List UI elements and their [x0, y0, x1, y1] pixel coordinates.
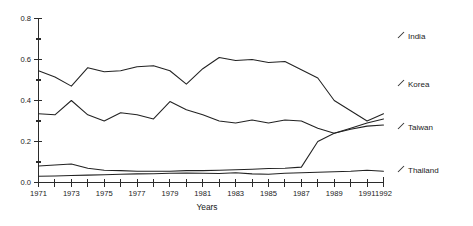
x-tick-label: 1973 — [63, 189, 80, 198]
x-tick-label: 1983 — [227, 189, 244, 198]
x-tick-label: 1987 — [293, 189, 310, 198]
x-axis-title: Years — [196, 202, 217, 212]
legend-leader-tick-taiwan — [398, 123, 404, 129]
x-tick-label: 1989 — [326, 189, 343, 198]
x-tick-label: 1971 — [30, 189, 47, 198]
y-tick-label: 0.4 — [20, 96, 31, 105]
legend-leader-tick-india — [398, 32, 404, 38]
x-tick-label: 1981 — [194, 189, 211, 198]
legend-label-korea: Korea — [408, 80, 430, 89]
x-tick-label: 1977 — [129, 189, 146, 198]
legend-label-thailand: Thailand — [408, 166, 439, 175]
series-line-taiwan — [39, 119, 384, 171]
x-tick-label: 1979 — [161, 189, 178, 198]
x-tick-label: 1991 — [359, 189, 376, 198]
legend-label-taiwan: Taiwan — [408, 123, 433, 132]
series-line-thailand — [39, 170, 384, 176]
chart-canvas: 0.00.20.40.60.8 197119731975197719791981… — [0, 0, 473, 226]
series-lines — [39, 57, 384, 176]
y-tick-label: 0.6 — [20, 55, 31, 64]
series-line-korea — [39, 101, 384, 134]
x-axis: 1971197319751977197919811983198519871989… — [30, 177, 392, 198]
x-tick-label: 1985 — [260, 189, 277, 198]
chart-legend: IndiaKoreaTaiwanThailand — [398, 32, 439, 175]
legend-leader-tick-korea — [398, 80, 404, 86]
legend-leader-tick-thailand — [398, 166, 404, 172]
x-tick-label: 1992 — [375, 189, 392, 198]
y-tick-label: 0.2 — [20, 137, 31, 146]
line-chart: 0.00.20.40.60.8 197119731975197719791981… — [0, 0, 473, 226]
y-tick-label: 0.8 — [20, 14, 31, 23]
y-tick-label: 0.0 — [20, 178, 31, 187]
x-tick-label: 1975 — [96, 189, 113, 198]
legend-label-india: India — [408, 32, 426, 41]
y-axis: 0.00.20.40.60.8 — [20, 14, 42, 187]
series-line-india — [39, 57, 384, 121]
